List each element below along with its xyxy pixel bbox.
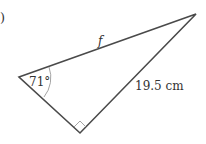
side-label-19-5cm: 19.5 cm [135, 79, 184, 93]
triangle [19, 14, 196, 133]
part-label: ) [0, 10, 5, 25]
side-label-f: f [97, 34, 105, 48]
triangle-diagram: ) 71° f 19.5 cm [0, 0, 206, 144]
angle-label: 71° [29, 75, 50, 89]
right-angle-marker [74, 121, 86, 127]
